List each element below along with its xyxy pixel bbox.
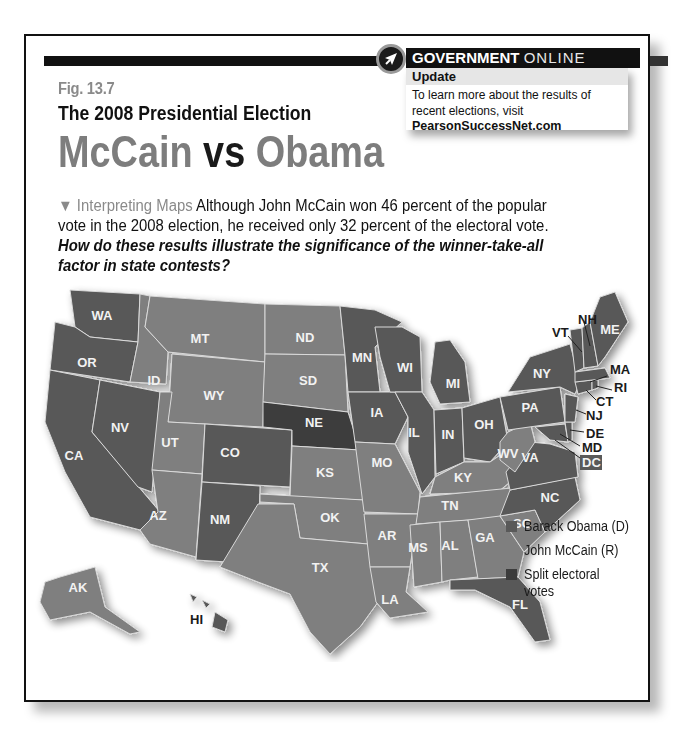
state-label-wv: WV	[498, 446, 519, 461]
state-label-mi: MI	[446, 376, 460, 391]
state-label-in: IN	[442, 427, 455, 442]
figure-title: McCain vs Obama	[58, 128, 384, 176]
state-label-nm: NM	[210, 512, 230, 527]
legend-item-mccain: John McCain (R)	[506, 542, 641, 559]
state-label-sd: SD	[299, 373, 317, 388]
state-label-ar: AR	[378, 528, 397, 543]
state-label-nd: ND	[296, 330, 315, 345]
legend-label: John McCain (R)	[524, 542, 619, 559]
government-online-box: Update To learn more about the results o…	[406, 68, 628, 130]
state-label-al: AL	[441, 538, 458, 553]
state-ak	[40, 567, 140, 634]
state-label-nj: NJ	[586, 408, 603, 423]
state-label-nc: NC	[541, 490, 560, 505]
state-label-tx: TX	[312, 560, 329, 575]
state-label-de: DE	[586, 426, 604, 441]
title-mccain: McCain	[58, 127, 193, 176]
split-swatch	[506, 569, 517, 580]
state-label-oh: OH	[474, 417, 494, 432]
update-tag: Update	[406, 68, 628, 85]
title-obama: Obama	[256, 127, 384, 176]
state-label-md: MD	[582, 440, 602, 455]
header-rule	[44, 56, 384, 66]
map-caption: ▼ Interpreting Maps Although John McCain…	[58, 196, 579, 276]
legend-item-obama: Barack Obama (D)	[506, 518, 641, 535]
state-label-pa: PA	[521, 400, 539, 415]
state-label-or: OR	[77, 355, 97, 370]
legend-item-split: Split electoral votes	[506, 566, 641, 600]
legend-label: Split electoral votes	[524, 566, 605, 600]
state-label-mt: MT	[191, 331, 210, 346]
map-legend: Barack Obama (D) John McCain (R) Split e…	[506, 518, 641, 607]
state-label-ms: MS	[408, 540, 428, 555]
state-md	[535, 424, 568, 442]
state-label-ma: MA	[610, 362, 631, 377]
state-label-nh: NH	[578, 312, 597, 327]
state-label-ct: CT	[596, 394, 613, 409]
update-text: To learn more about the results of recen…	[412, 87, 622, 119]
state-label-ak: AK	[69, 580, 88, 595]
state-label-hi: HI	[190, 612, 203, 627]
government-online-heading: GOVERNMENT ONLINE	[406, 48, 640, 68]
state-nj	[565, 394, 578, 422]
state-label-co: CO	[220, 445, 240, 460]
legend-label: Barack Obama (D)	[524, 518, 629, 535]
state-label-tn: TN	[441, 498, 458, 513]
state-label-id: ID	[148, 373, 161, 388]
state-co	[202, 424, 292, 487]
figure-subtitle: The 2008 Presidential Election	[58, 102, 311, 125]
state-label-ok: OK	[320, 510, 340, 525]
figure-number: Fig. 13.7	[58, 80, 114, 98]
header-rule-end	[650, 56, 668, 66]
state-label-ut: UT	[161, 435, 178, 450]
state-label-la: LA	[381, 592, 399, 607]
state-label-mo: MO	[372, 455, 393, 470]
state-label-ks: KS	[316, 465, 334, 480]
caption-question: How do these results illustrate the sign…	[58, 237, 543, 274]
obama-swatch	[506, 521, 517, 532]
state-label-nv: NV	[111, 420, 129, 435]
state-label-il: IL	[408, 425, 420, 440]
state-label-vt: VT	[552, 325, 569, 340]
state-label-me: ME	[600, 322, 620, 337]
interpreting-maps-label: ▼ Interpreting Maps	[58, 197, 193, 214]
state-mi	[430, 340, 470, 404]
state-label-ca: CA	[65, 448, 84, 463]
state-label-wa: WA	[92, 308, 114, 323]
state-label-ne: NE	[305, 415, 323, 430]
heading-online: ONLINE	[524, 49, 586, 66]
pearson-link[interactable]: PearsonSuccessNet.com	[412, 119, 622, 133]
title-vs: vs	[203, 127, 245, 176]
state-label-ky: KY	[454, 470, 472, 485]
heading-government: GOVERNMENT	[412, 49, 520, 66]
state-label-wy: WY	[204, 388, 225, 403]
state-label-ga: GA	[475, 530, 495, 545]
state-label-ny: NY	[533, 366, 551, 381]
state-label-ia: IA	[371, 405, 385, 420]
mccain-swatch	[506, 545, 517, 556]
arrow-cursor-icon	[376, 44, 406, 74]
state-label-va: VA	[521, 450, 539, 465]
state-label-wi: WI	[397, 360, 413, 375]
state-label-mn: MN	[352, 350, 372, 365]
state-label-ri: RI	[614, 380, 627, 395]
state-label-az: AZ	[149, 508, 166, 523]
state-label-dc: DC	[582, 455, 601, 470]
